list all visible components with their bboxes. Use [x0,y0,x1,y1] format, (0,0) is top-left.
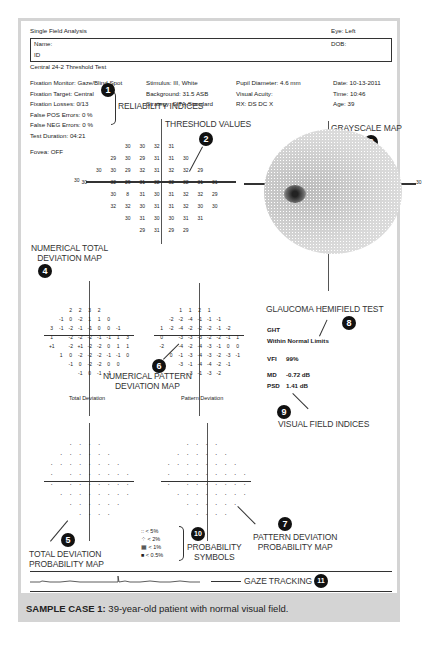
grid-cell: 2 [66,307,76,314]
grid-cell [212,492,222,498]
grid-cell: -1 [85,325,95,332]
grid-cell [233,316,243,323]
grid-cell: -1 [186,361,196,368]
grid-cell [114,492,124,498]
grid-cell [221,512,231,518]
grid-cell: -4 [195,343,205,350]
grid-cell [85,482,95,488]
grid-cell [231,472,241,478]
probability-legend: :: < 5%⁘ < 2%▦ < 1%■ < 0.5% [141,527,163,559]
test-duration: Test Duration: 04:21 [30,131,122,142]
grid-cell [167,361,177,368]
grid-cell: 30 [193,203,208,210]
grid-cell [121,227,136,234]
grid-cell: 32 [106,179,121,186]
grid-cell [47,361,57,368]
grid-cell [57,343,67,350]
rx: RX: DS DC X [236,99,301,110]
grid-cell [183,492,193,498]
grid-cell: -2 [186,325,196,332]
grid-cell: -1 [57,325,67,332]
grid-cell: 3 [123,334,133,341]
caption-bold: SAMPLE CASE 1: [26,603,106,614]
grid-cell [104,482,114,488]
grid-cell [77,191,92,198]
grid-cell [123,361,133,368]
grid-cell [202,472,212,478]
ght-value: Within Normal Limits [267,337,329,345]
id-label: ID [34,51,40,59]
grid-cell [183,482,193,488]
label-total-deviation-probability: TOTAL DEVIATION PROBABILITY MAP [29,549,104,569]
name-label: Name: [34,40,52,48]
grid-cell: 0 [233,343,243,350]
label-gaze-tracking: GAZE TRACKING [244,576,312,586]
grid-cell [224,370,234,377]
grid-cell: +1 [76,343,86,350]
grid-cell [77,203,92,210]
ght-label: GHT [267,326,280,334]
grid-cell: 1 [95,316,105,323]
grid-cell: 32 [179,191,194,198]
grid-cell [193,472,203,478]
gaze-top-line [30,571,392,572]
grid-cell [183,472,193,478]
grid-cell: -1 [224,361,234,368]
grid-cell [193,155,208,162]
grid-cell: -3 [224,352,234,359]
grid-cell: 30 [208,203,223,210]
grid-cell [174,492,184,498]
grid-cell: 0 [224,343,234,350]
grid-cell [57,452,67,458]
label-glaucoma-hemifield-test: GLAUCOMA HEMIFIELD TEST [266,304,384,314]
grid-cell: -4 [176,325,186,332]
label-reliability-indices: RELIABILITY INDICES [118,101,203,111]
grid-cell [233,325,243,332]
grid-cell [66,452,76,458]
grid-cell [240,472,250,478]
visual-field-report: Single Field Analysis Eye: Left Name: ID… [21,21,397,593]
grid-cell: -1 [76,370,86,377]
grid-cell: -2 [66,325,76,332]
grid-cell: -2 [85,334,95,341]
grid-cell: 30 [121,215,136,222]
grid-cell [183,462,193,468]
grid-cell: -4 [195,361,205,368]
grid-cell [193,512,203,518]
grid-cell: -2 [157,343,167,350]
grid-cell: -1 [114,325,124,332]
grid-cell [47,370,57,377]
grid-cell [193,442,203,448]
grid-cell: 30 [77,179,92,186]
grid-cell: 29 [135,227,150,234]
grid-cell [76,482,86,488]
grid-cell [208,155,223,162]
grid-cell [57,361,67,368]
grid-cell [104,502,114,508]
grid-cell [95,462,105,468]
grid-cell [167,307,177,314]
grid-cell: 31 [150,167,165,174]
grid-cell: 1 [205,307,215,314]
grid-cell: 32 [164,167,179,174]
grid-cell: 31 [193,215,208,222]
total-deviation-probability-grid [47,442,133,518]
grid-cell [221,502,231,508]
grid-cell: 1 [47,334,57,341]
gaze-tracking-trace [30,573,205,587]
grid-cell: 31 [135,179,150,186]
grid-cell: -2 [214,352,224,359]
fovea: Fovea: OFF [30,148,63,156]
grid-cell [221,482,231,488]
grid-cell [92,191,107,198]
grid-cell: -2 [85,352,95,359]
false-pos-errors: False POS Errors: 0 % [30,110,122,121]
grid-cell [193,227,208,234]
grid-cell [76,462,86,468]
grid-cell [157,307,167,314]
grid-cell [57,307,67,314]
grid-cell: -2 [214,334,224,341]
grid-cell [47,307,57,314]
grid-cell: 1 [57,352,67,359]
grid-cell [76,452,86,458]
